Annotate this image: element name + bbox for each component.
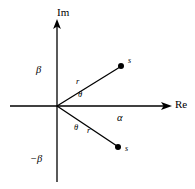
real-axis-label: Re [175, 99, 187, 110]
pole-upper-marker [118, 63, 124, 69]
pole-lower-label: s [125, 145, 128, 153]
radius-vector-upper [57, 67, 120, 106]
alpha-label: α [117, 113, 123, 124]
pole-lower-marker [115, 144, 121, 150]
theta-upper-label: θ [78, 90, 82, 99]
radius-upper-label: r [76, 77, 79, 86]
radius-lower-label: r [87, 126, 90, 135]
beta-positive-label: β [36, 65, 41, 76]
pole-upper-label: s [128, 57, 131, 65]
beta-negative-label: −β [30, 154, 42, 165]
imaginary-axis-label: Im [57, 7, 69, 18]
complex-plane-figure: Im Re β −β α r θ θ r s s [0, 0, 195, 189]
theta-lower-label: θ [74, 123, 78, 132]
